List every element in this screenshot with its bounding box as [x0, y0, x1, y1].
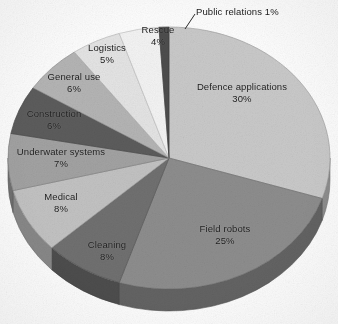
pie-top-faces — [8, 27, 330, 289]
pie-chart-canvas — [0, 0, 338, 324]
pie-chart: Public relations 1% Rescue 4% Logistics … — [0, 0, 338, 324]
leader-lines — [185, 14, 195, 29]
public-relations-leader-line — [185, 14, 195, 29]
pie-geometry — [8, 27, 330, 311]
